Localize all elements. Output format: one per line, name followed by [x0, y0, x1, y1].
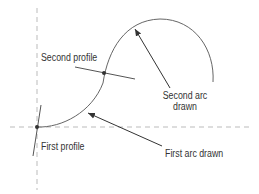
- diagram-canvas: [0, 0, 259, 194]
- first-arc-label: First arc drawn: [165, 148, 223, 159]
- first-arc: [37, 83, 103, 127]
- second-arc-label-line1: Second arc: [154, 90, 216, 101]
- first-profile-line: [33, 105, 41, 156]
- second-profile-point: [102, 71, 106, 75]
- first-arc-arrow: [88, 113, 162, 146]
- second-arc-label-line2: drawn: [154, 101, 216, 112]
- diagram: Second profile Second arc drawn First pr…: [0, 0, 259, 194]
- second-profile-label: Second profile: [41, 52, 97, 63]
- first-profile-point: [35, 125, 39, 129]
- second-arc-arrow: [135, 29, 170, 88]
- second-arc: [103, 19, 213, 83]
- first-profile-label: First profile: [41, 141, 85, 152]
